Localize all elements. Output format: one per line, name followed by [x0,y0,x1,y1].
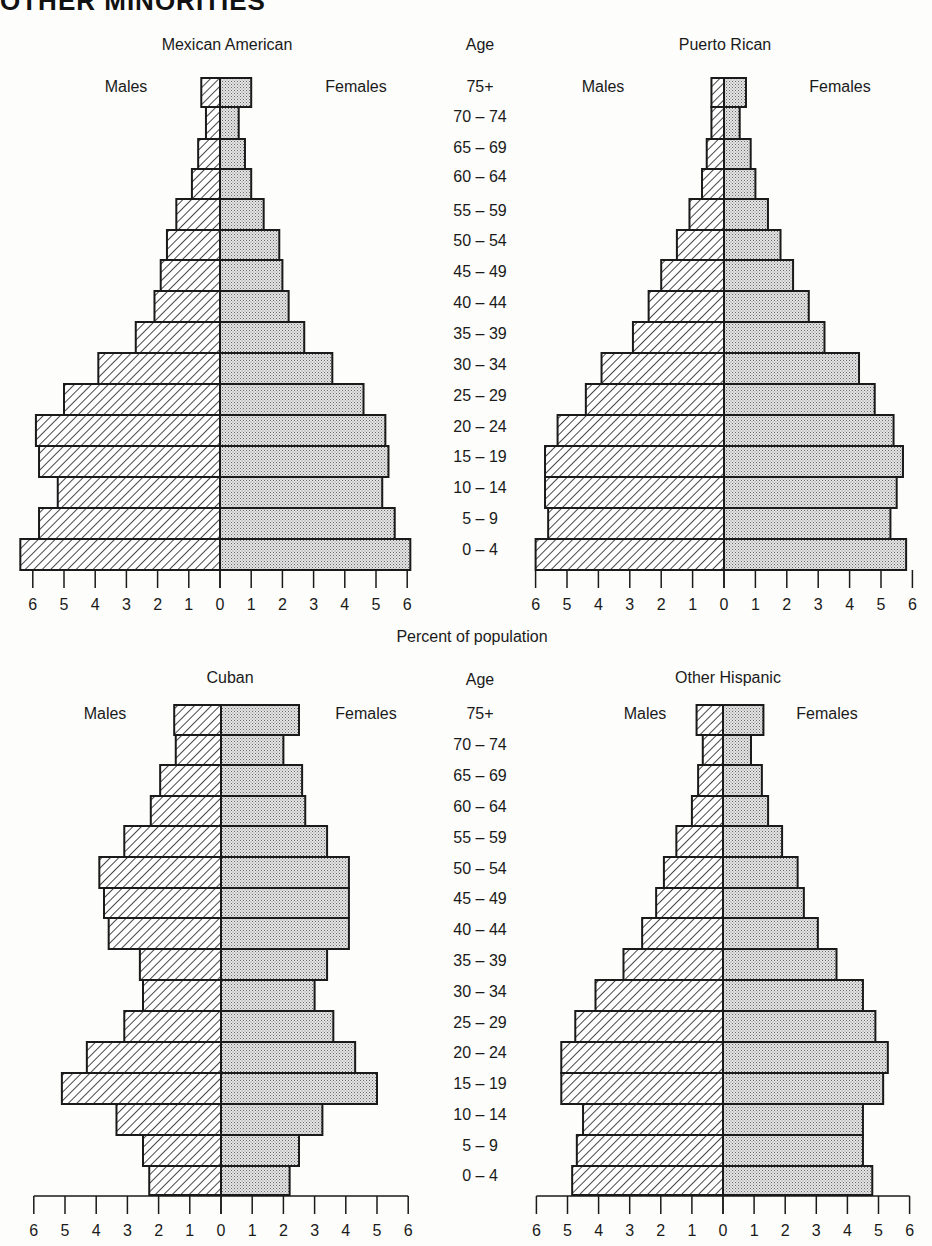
male-bar-35-39 [140,949,221,980]
age-group-label: 35 – 39 [453,952,506,969]
age-group-label: 75+ [466,705,493,722]
x-tick-label: 4 [91,596,100,613]
female-bar-15-19 [221,1073,377,1104]
female-bar-30-34 [723,980,863,1011]
age-group-label: 25 – 29 [453,387,506,404]
x-tick-label: 5 [563,1222,572,1239]
x-tick-label: 4 [594,596,603,613]
male-bar-55-59 [176,199,220,230]
female-bar-10-14 [220,477,382,508]
x-tick-label: 2 [278,596,287,613]
female-bar-75+ [221,705,299,735]
female-bar-10-14 [221,1104,322,1135]
male-bar-15-19 [561,1073,723,1104]
female-bar-0-4 [724,539,906,570]
x-tick-label: 2 [656,1222,665,1239]
male-bar-40-44 [109,918,221,949]
x-tick-label: 3 [122,596,131,613]
male-bar-45-49 [661,260,724,291]
female-bar-50-54 [723,857,798,888]
male-bar-55-59 [689,199,724,230]
x-tick-label: 6 [905,1222,914,1239]
x-tick-label: 5 [373,1222,382,1239]
male-bar-60-64 [151,796,221,826]
males-label: Males [105,78,148,95]
female-bar-25-29 [221,1011,333,1042]
x-tick-label: 2 [657,596,666,613]
x-tick-label: 1 [750,1222,759,1239]
male-bar-60-64 [702,169,724,199]
female-bar-50-54 [220,230,279,260]
x-tick-label: 0 [216,596,225,613]
age-group-label: 65 – 69 [453,139,506,156]
males-label: Males [624,705,667,722]
male-bar-75+ [174,705,221,735]
female-bar-15-19 [723,1073,883,1104]
male-bar-40-44 [649,291,724,322]
female-bar-60-64 [221,796,305,826]
male-bar-70-74 [206,107,220,139]
male-bar-5-9 [39,508,220,539]
male-bar-60-64 [192,169,220,199]
age-heading: Age [466,671,495,688]
age-group-label: 5 – 9 [462,1137,498,1154]
x-tick-label: 4 [341,1222,350,1239]
female-bar-25-29 [723,1011,875,1042]
age-group-label: 15 – 19 [453,1075,506,1092]
female-bar-20-24 [723,1042,888,1073]
age-group-label: 25 – 29 [453,1014,506,1031]
female-bar-0-4 [723,1166,872,1195]
female-bar-45-49 [723,888,804,918]
male-bar-15-19 [39,446,220,477]
pyramid-panel-cuban: CubanMalesFemales6543210123456 [29,669,412,1239]
x-tick-label: 6 [532,1222,541,1239]
male-bar-70-74 [703,735,723,765]
age-group-label: 15 – 19 [453,448,506,465]
male-bar-40-44 [642,918,723,949]
female-bar-70-74 [724,107,740,139]
x-tick-label: 3 [625,596,634,613]
panel-title: Cuban [206,669,253,686]
x-tick-label: 4 [845,596,854,613]
male-bar-75+ [697,705,723,735]
x-axis-label: Percent of population [396,628,547,645]
x-tick-label: 3 [309,596,318,613]
female-bar-0-4 [220,539,410,570]
x-tick-label: 3 [310,1222,319,1239]
males-label: Males [582,78,625,95]
males-label: Males [84,705,127,722]
x-tick-label: 4 [843,1222,852,1239]
age-group-label: 70 – 74 [453,736,506,753]
female-bar-55-59 [220,199,264,230]
female-bar-45-49 [724,260,793,291]
x-tick-label: 5 [874,1222,883,1239]
x-tick-label: 1 [247,596,256,613]
panel-title: Other Hispanic [675,669,781,686]
male-bar-30-34 [602,353,724,384]
x-tick-label: 3 [625,1222,634,1239]
x-tick-label: 1 [185,1222,194,1239]
x-tick-label: 5 [60,596,69,613]
male-bar-15-19 [545,446,724,477]
female-bar-70-74 [221,735,283,765]
female-bar-15-19 [220,446,388,477]
female-bar-20-24 [221,1042,355,1073]
x-tick-label: 6 [404,1222,413,1239]
age-group-label: 40 – 44 [453,294,506,311]
age-group-label: 10 – 14 [453,1106,506,1123]
female-bar-45-49 [220,260,282,291]
age-column-top: Age75+70 – 7465 – 6960 – 6455 – 5950 – 5… [453,36,506,558]
female-bar-10-14 [723,1104,863,1135]
male-bar-35-39 [136,322,220,353]
female-bar-30-34 [220,353,332,384]
x-tick-label: 4 [92,1222,101,1239]
male-bar-10-14 [58,477,220,508]
female-bar-65-69 [723,765,762,796]
male-bar-50-54 [664,857,723,888]
x-tick-label: 0 [720,596,729,613]
female-bar-60-64 [220,169,251,199]
age-group-label: 5 – 9 [462,510,498,527]
x-tick-label: 2 [279,1222,288,1239]
female-bar-0-4 [221,1166,290,1195]
male-bar-0-4 [20,539,220,570]
